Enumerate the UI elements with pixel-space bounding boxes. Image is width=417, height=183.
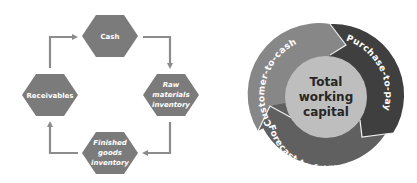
node-cash-label: Cash bbox=[100, 33, 119, 41]
node-finished-label-2: goods bbox=[98, 149, 122, 157]
node-finished-label-3: inventory bbox=[91, 159, 129, 167]
center-label-line-1: Total bbox=[310, 75, 343, 89]
node-raw-label-1: Raw bbox=[163, 81, 180, 89]
node-cash: Cash bbox=[82, 15, 138, 57]
node-finished-goods: Finished goods inventory bbox=[82, 132, 138, 174]
arrow-receivables-to-cash bbox=[50, 37, 75, 68]
diagram-canvas: Cash Raw materials inventory Finished go… bbox=[0, 0, 417, 183]
center-label-line-2: working bbox=[299, 90, 353, 104]
node-raw-label-3: inventory bbox=[152, 101, 190, 109]
arrow-finished-to-receivables bbox=[50, 124, 78, 153]
node-receivables-label: Receivables bbox=[26, 92, 73, 100]
node-receivables: Receivables bbox=[22, 74, 78, 116]
node-finished-label-1: Finished bbox=[93, 139, 127, 147]
arrow-cash-to-raw bbox=[143, 37, 170, 66]
arrow-raw-to-finished bbox=[145, 122, 170, 153]
center-label-line-3: capital bbox=[303, 105, 349, 119]
node-raw-materials: Raw materials inventory bbox=[143, 74, 199, 116]
working-capital-cycle: Cash Raw materials inventory Finished go… bbox=[22, 15, 199, 174]
total-working-capital-wheel: Total working capital Customer-to-cash P… bbox=[248, 23, 404, 174]
node-raw-label-2: materials bbox=[152, 91, 189, 99]
